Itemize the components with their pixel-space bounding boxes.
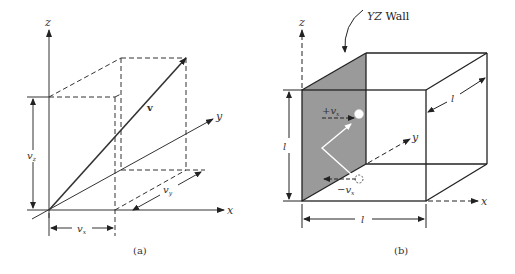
molecule-after <box>355 110 364 119</box>
molecule-before <box>355 175 363 183</box>
panel-a <box>27 30 224 236</box>
depth-label: l <box>451 93 454 104</box>
vx-label: vx <box>77 223 87 235</box>
figure: z x y v vz vx vy (a) <box>0 0 515 274</box>
panel-b <box>283 10 487 228</box>
y-axis-label: y <box>215 110 223 123</box>
x-axis-label-b: x <box>481 195 488 208</box>
vector-v-label: v <box>146 102 154 113</box>
x-axis-label: x <box>227 204 234 217</box>
caption-b: (b) <box>394 245 408 256</box>
panel-a-labels: z x y v vz vx vy (a) <box>27 16 234 256</box>
vz-label: vz <box>27 150 37 162</box>
wall-label: YZ Wall <box>367 10 410 23</box>
caption-a: (a) <box>133 245 147 256</box>
wall-pointer <box>345 10 363 52</box>
vy-label: vy <box>163 184 173 197</box>
y-axis-b <box>368 139 410 163</box>
z-axis-label: z <box>44 16 51 29</box>
depth-dimension <box>428 102 447 112</box>
minus-vx-label: −vx <box>337 184 355 196</box>
component-box <box>49 58 205 236</box>
width-label: l <box>361 214 364 225</box>
z-axis-label-b: z <box>298 16 305 29</box>
height-label: l <box>283 141 286 152</box>
y-axis-label-b: y <box>411 131 419 144</box>
